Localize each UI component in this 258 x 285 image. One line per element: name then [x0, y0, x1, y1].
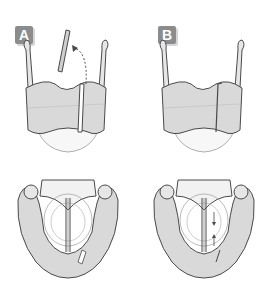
diagram-canvas [0, 0, 258, 285]
panel-b-front-view [160, 40, 244, 152]
panel-b-top-view [154, 180, 254, 278]
panel-a-front-view [24, 30, 108, 152]
panel-a-top-view [18, 180, 118, 278]
